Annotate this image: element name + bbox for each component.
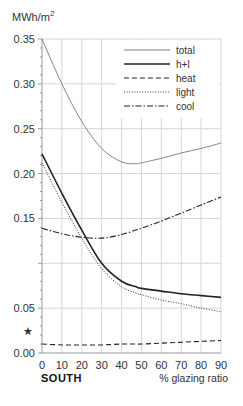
x-tick-label: 90 [215,359,227,371]
region-label: SOUTH [41,372,82,384]
legend-label: cool [176,101,194,112]
x-tick-label: 70 [175,359,187,371]
series-line-h-plus-l [42,154,221,298]
legend: totalh+lheatlightcool [116,40,219,118]
x-tick-label: 0 [39,359,45,371]
legend-label: light [176,87,195,98]
y-tick-label: 0.15 [14,212,35,224]
series-line-light [42,163,221,312]
x-tick-label: 20 [76,359,88,371]
y-tick-label: 0.30 [14,78,35,90]
y-tick-label: 0.20 [14,168,35,180]
legend-label: total [176,45,195,56]
series-line-heat [42,340,221,345]
chart: totalh+lheatlightcool 0.000.050.150.200.… [0,0,243,406]
x-tick-label: 40 [115,359,127,371]
legend-label: h+l [176,59,190,70]
x-tick-label: 30 [96,359,108,371]
x-axis-label: % glazing ratio [159,372,228,384]
x-tick-label: 80 [195,359,207,371]
y-tick-label: 0.35 [14,33,35,45]
y-tick-label: 0.05 [14,302,35,314]
x-tick-label: 50 [135,359,147,371]
y-tick-label: 0.25 [14,123,35,135]
legend-label: heat [176,73,196,84]
y-tick-label: 0.00 [14,347,35,359]
x-tick-label: 60 [155,359,167,371]
y-unit-label: MWh/m2 [12,9,55,23]
star-marker-icon: ★ [23,325,33,337]
x-tick-label: 10 [56,359,68,371]
series-line-cool [42,197,221,238]
